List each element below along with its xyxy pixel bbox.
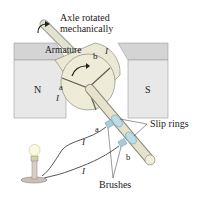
wires: [42, 127, 119, 178]
terminal-b-ring-label: b: [126, 152, 130, 162]
slip-rings-label: Slip rings: [150, 118, 189, 129]
armature-label: Armature: [45, 45, 81, 55]
north-pole-label: N: [34, 84, 41, 95]
brushes-label: Brushes: [99, 179, 131, 190]
bulb-icon: [29, 145, 40, 156]
axle-label-line1: Axle rotated: [60, 12, 110, 23]
terminal-a-ring-label: a: [95, 124, 99, 134]
south-pole-label: S: [145, 84, 151, 95]
ac-generator-diagram: Axle rotated mechanically Armature b I N…: [0, 0, 207, 201]
axle-label-line2: mechanically: [60, 23, 113, 34]
current-label-wire-b: I: [81, 166, 86, 176]
terminal-b-top-label: b: [93, 51, 98, 61]
south-magnet: [118, 43, 168, 118]
terminal-a-top-label: a: [59, 82, 63, 92]
lamp: [21, 145, 47, 184]
